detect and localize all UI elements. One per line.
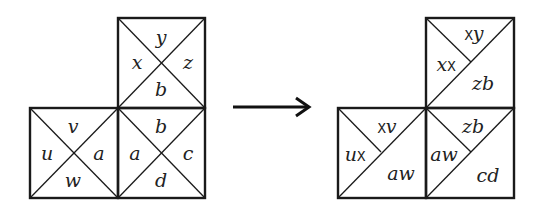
left-bottom-left-square: v u a w	[30, 108, 118, 198]
label-y: y	[155, 26, 167, 48]
label-x: x	[132, 51, 143, 73]
label-z: z	[182, 51, 194, 73]
label-uX: uX	[345, 143, 366, 165]
label-d: d	[155, 169, 167, 191]
right-top-square: Xy xX zb	[426, 18, 514, 108]
tiling-diagram: y x z b v u a w b a c d	[0, 0, 536, 212]
label-w: w	[65, 169, 81, 191]
right-bottom-right-square: zb aw cd	[426, 108, 514, 198]
label-a: a	[93, 142, 104, 164]
label-b: b	[155, 78, 167, 100]
label-aw: aw	[430, 143, 458, 165]
left-top-square: y x z b	[118, 18, 205, 108]
label-v: v	[68, 115, 79, 137]
label-aw: aw	[387, 162, 415, 184]
label-zb: zb	[461, 115, 484, 137]
label-a: a	[129, 142, 140, 164]
label-cd: cd	[477, 164, 500, 186]
left-figure: y x z b v u a w b a c d	[30, 18, 205, 198]
label-Xv: Xv	[377, 115, 396, 137]
left-bottom-right-square: b a c d	[118, 108, 205, 198]
label-Xy: Xy	[464, 22, 483, 44]
right-figure: Xy xX zb Xv uX aw zb aw cd	[338, 18, 514, 198]
right-bottom-left-square: Xv uX aw	[338, 108, 426, 198]
label-u: u	[41, 142, 53, 164]
label-zb: zb	[471, 72, 494, 94]
right-arrow-icon	[233, 98, 309, 116]
label-c: c	[183, 142, 194, 164]
label-xX: xX	[436, 53, 456, 75]
label-b: b	[155, 115, 167, 137]
